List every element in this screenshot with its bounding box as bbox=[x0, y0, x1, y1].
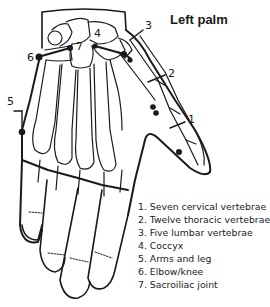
legend-item-6: 6. Elbow/knee bbox=[138, 265, 270, 278]
point-2a bbox=[150, 104, 156, 110]
finger-index bbox=[88, 190, 128, 289]
label-5: 5 bbox=[7, 96, 14, 107]
hand-outline-left bbox=[20, 56, 42, 242]
diagram-title: Left palm bbox=[170, 12, 228, 27]
thumb-outline bbox=[126, 30, 210, 215]
point-6 bbox=[36, 54, 43, 61]
point-7 bbox=[67, 45, 73, 51]
crease-2 bbox=[48, 253, 65, 255]
label-1: 1 bbox=[188, 114, 195, 125]
label-2: 2 bbox=[168, 68, 175, 79]
legend-item-3: 3. Five lumbar vertebrae bbox=[138, 226, 270, 239]
wrist-outline bbox=[42, 9, 126, 48]
legend-item-7: 7. Sacroiliac joint bbox=[138, 278, 270, 291]
label-6: 6 bbox=[27, 52, 34, 63]
crease-3 bbox=[70, 258, 88, 262]
finger-ring bbox=[40, 180, 65, 272]
label-7: 7 bbox=[76, 41, 83, 52]
leader-lines bbox=[14, 30, 185, 130]
finger-middle bbox=[60, 188, 90, 298]
crease-4 bbox=[95, 252, 112, 258]
line-6-7 bbox=[38, 48, 70, 57]
point-5 bbox=[19, 129, 26, 136]
legend-item-1: 1. Seven cervical vertebrae bbox=[138, 200, 270, 213]
legend-item-5: 5. Arms and leg bbox=[138, 252, 270, 265]
crease-1 bbox=[29, 212, 42, 213]
legend: 1. Seven cervical vertebrae 2. Twelve th… bbox=[138, 200, 270, 291]
point-3b bbox=[127, 57, 132, 62]
legend-item-4: 4. Coccyx bbox=[138, 239, 270, 252]
label-3: 3 bbox=[145, 20, 152, 31]
point-1 bbox=[176, 149, 182, 155]
carpal-bones bbox=[45, 18, 132, 68]
point-2b bbox=[153, 110, 159, 116]
point-4 bbox=[92, 43, 97, 48]
point-3a bbox=[121, 51, 127, 57]
legend-item-2: 2. Twelve thoracic vertebrae bbox=[138, 213, 270, 226]
knuckle-line bbox=[22, 160, 128, 190]
label-4: 4 bbox=[94, 28, 101, 39]
